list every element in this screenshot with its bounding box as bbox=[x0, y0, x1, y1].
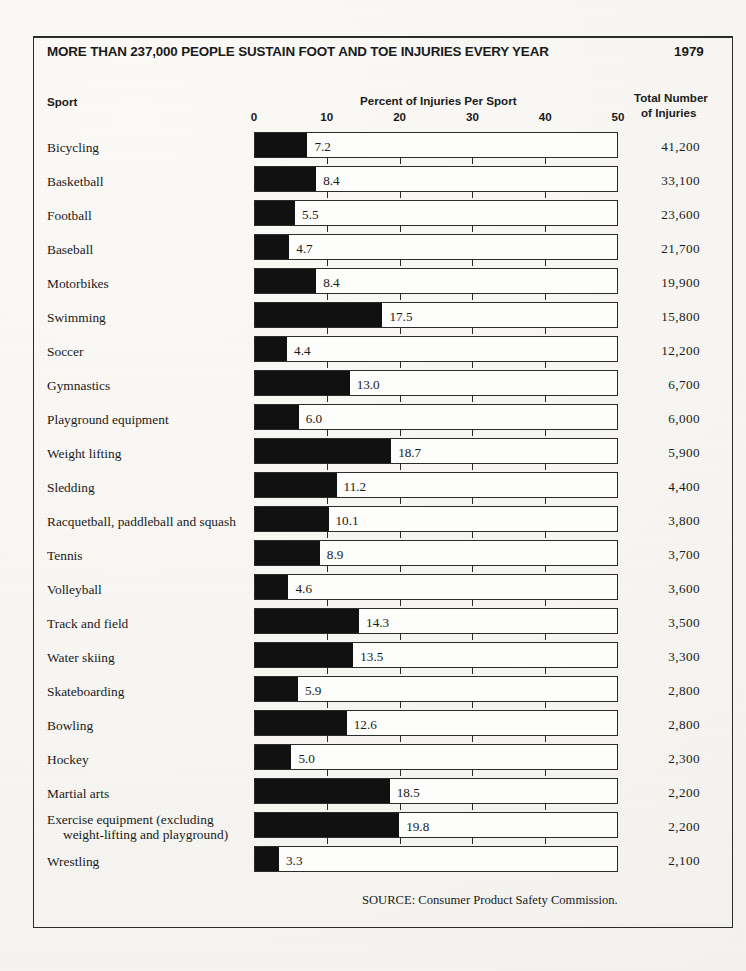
total-injuries-value: 2,200 bbox=[668, 785, 700, 801]
total-injuries-value: 4,400 bbox=[668, 479, 700, 495]
headline-divider bbox=[33, 36, 733, 37]
total-injuries-value: 19,900 bbox=[661, 275, 700, 291]
bar-chart-plot-area: 7.28.45.54.78.417.54.413.06.018.711.210.… bbox=[254, 130, 618, 878]
bar-fill bbox=[255, 541, 320, 565]
headline-year: 1979 bbox=[674, 44, 704, 59]
bar-value-label: 4.4 bbox=[294, 343, 310, 359]
sport-label-column: BicyclingBasketballFootballBaseballMotor… bbox=[47, 130, 252, 878]
bar-row: 14.3 bbox=[254, 606, 618, 640]
x-axis-scale: 01020304050 bbox=[254, 110, 618, 126]
total-injuries-value: 3,300 bbox=[668, 649, 700, 665]
axis-tick-label-50: 50 bbox=[612, 110, 625, 123]
bar-row: 4.4 bbox=[254, 334, 618, 368]
sport-label-row: Bicycling bbox=[47, 130, 252, 164]
bar-track bbox=[254, 268, 618, 294]
bar-fill bbox=[255, 507, 329, 531]
sport-label: Tennis bbox=[47, 548, 83, 563]
sport-label: Volleyball bbox=[47, 582, 102, 597]
bar-row: 4.7 bbox=[254, 232, 618, 266]
total-injuries-value: 12,200 bbox=[661, 343, 700, 359]
bar-row: 3.3 bbox=[254, 844, 618, 878]
total-injuries-value: 3,600 bbox=[668, 581, 700, 597]
axis-tick-label-20: 20 bbox=[393, 110, 406, 123]
total-injuries-value: 3,700 bbox=[668, 547, 700, 563]
total-row: 21,700 bbox=[628, 232, 714, 266]
bar-fill bbox=[255, 847, 279, 871]
sport-label-row: Soccer bbox=[47, 334, 252, 368]
total-injuries-value: 3,800 bbox=[668, 513, 700, 529]
headline-band: MORE THAN 237,000 PEOPLE SUSTAIN FOOT AN… bbox=[33, 44, 733, 74]
sport-label: Swimming bbox=[47, 310, 106, 325]
bar-track bbox=[254, 642, 618, 668]
axis-tick-label-0: 0 bbox=[251, 110, 257, 123]
sport-label-row: Swimming bbox=[47, 300, 252, 334]
total-injuries-value: 15,800 bbox=[661, 309, 700, 325]
bar-value-label: 13.0 bbox=[357, 377, 380, 393]
sport-label-row: Playground equipment bbox=[47, 402, 252, 436]
sport-label: Motorbikes bbox=[47, 276, 109, 291]
bar-value-label: 3.3 bbox=[286, 853, 302, 869]
column-header-sport: Sport bbox=[47, 95, 77, 108]
total-row: 6,000 bbox=[628, 402, 714, 436]
bar-value-label: 10.1 bbox=[336, 513, 359, 529]
bar-track bbox=[254, 132, 618, 158]
bar-value-label: 18.7 bbox=[398, 445, 421, 461]
bar-fill bbox=[255, 133, 307, 157]
bar-value-label: 5.0 bbox=[298, 751, 314, 767]
bar-value-label: 14.3 bbox=[366, 615, 389, 631]
total-injuries-value: 23,600 bbox=[661, 207, 700, 223]
sport-label-row: Racquetball, paddleball and squash bbox=[47, 504, 252, 538]
sport-label: Racquetball, paddleball and squash bbox=[47, 514, 236, 529]
sport-label: Football bbox=[47, 208, 92, 223]
sport-label: Exercise equipment (excludingweight-lift… bbox=[47, 812, 228, 842]
bar-value-label: 13.5 bbox=[360, 649, 383, 665]
bar-row: 7.2 bbox=[254, 130, 618, 164]
bar-fill bbox=[255, 643, 353, 667]
sport-label: Sledding bbox=[47, 480, 95, 495]
bar-fill bbox=[255, 371, 350, 395]
sport-label: Water skiing bbox=[47, 650, 115, 665]
sport-label-row: Track and field bbox=[47, 606, 252, 640]
bar-track bbox=[254, 608, 618, 634]
sport-label-row: Football bbox=[47, 198, 252, 232]
sport-label: Skateboarding bbox=[47, 684, 124, 699]
total-injuries-value: 33,100 bbox=[661, 173, 700, 189]
sport-label: Hockey bbox=[47, 752, 89, 767]
total-row: 3,700 bbox=[628, 538, 714, 572]
bar-value-label: 8.4 bbox=[323, 173, 339, 189]
bar-row: 10.1 bbox=[254, 504, 618, 538]
bar-row: 18.5 bbox=[254, 776, 618, 810]
bar-value-label: 17.5 bbox=[389, 309, 412, 325]
sport-label-row: Wrestling bbox=[47, 844, 252, 878]
total-row: 2,200 bbox=[628, 810, 714, 844]
bar-fill bbox=[255, 813, 399, 837]
column-header-total-line1: Total Number bbox=[634, 91, 708, 104]
total-row: 5,900 bbox=[628, 436, 714, 470]
total-row: 33,100 bbox=[628, 164, 714, 198]
bar-row: 13.0 bbox=[254, 368, 618, 402]
sport-label-row: Baseball bbox=[47, 232, 252, 266]
bar-fill bbox=[255, 439, 391, 463]
sport-label: Wrestling bbox=[47, 854, 99, 869]
bar-fill bbox=[255, 337, 287, 361]
total-row: 2,800 bbox=[628, 708, 714, 742]
bar-fill bbox=[255, 711, 347, 735]
total-injuries-value: 6,700 bbox=[668, 377, 700, 393]
total-row: 3,300 bbox=[628, 640, 714, 674]
total-injuries-value: 2,100 bbox=[668, 853, 700, 869]
bar-fill bbox=[255, 201, 295, 225]
column-header-percent: Percent of Injuries Per Sport bbox=[360, 94, 517, 107]
bar-value-label: 5.9 bbox=[305, 683, 321, 699]
total-row: 6,700 bbox=[628, 368, 714, 402]
total-injuries-value: 3,500 bbox=[668, 615, 700, 631]
bar-value-label: 18.5 bbox=[397, 785, 420, 801]
bar-value-label: 7.2 bbox=[314, 139, 330, 155]
total-injuries-value: 21,700 bbox=[661, 241, 700, 257]
bar-fill bbox=[255, 575, 288, 599]
bar-value-label: 4.6 bbox=[295, 581, 311, 597]
bar-row: 13.5 bbox=[254, 640, 618, 674]
bar-row: 8.4 bbox=[254, 164, 618, 198]
bar-track bbox=[254, 472, 618, 498]
total-injuries-column: 41,20033,10023,60021,70019,90015,80012,2… bbox=[628, 130, 714, 878]
total-row: 2,100 bbox=[628, 844, 714, 878]
